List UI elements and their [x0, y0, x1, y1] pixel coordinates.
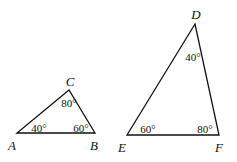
triangle-abc: A B C 40° 60° 80°	[7, 74, 98, 153]
angle-label-d: 40°	[185, 51, 200, 63]
angle-label-c: 80°	[61, 97, 76, 109]
triangle-def: D E F 40° 60° 80°	[117, 7, 224, 155]
vertex-label-e: E	[117, 140, 126, 155]
angle-label-e: 60°	[140, 123, 155, 135]
vertex-label-c: C	[66, 74, 75, 89]
vertex-label-b: B	[90, 138, 98, 153]
angle-label-f: 80°	[197, 123, 212, 135]
angle-label-b: 60°	[73, 122, 88, 134]
diagram-canvas: A B C 40° 60° 80° D E F 40° 60° 80°	[0, 0, 237, 162]
vertex-label-a: A	[7, 138, 16, 153]
triangle-def-outline	[127, 24, 219, 135]
vertex-label-d: D	[190, 7, 201, 22]
angle-label-a: 40°	[31, 122, 46, 134]
vertex-label-f: F	[214, 140, 224, 155]
